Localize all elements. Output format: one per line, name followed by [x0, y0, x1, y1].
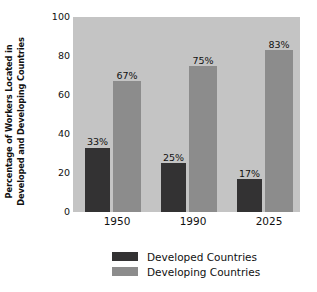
bar-developed-2025	[237, 179, 262, 212]
y-tick-100: 100	[44, 12, 70, 22]
y-axis-ticks: 100 80 60 40 20 0	[40, 0, 70, 292]
bar-developed-1950	[85, 148, 110, 212]
y-axis-title: Percentage of Workers Located in Develop…	[4, 24, 27, 220]
plot-area: 33% 67% 25% 75% 17% 83%	[73, 17, 300, 212]
y-tick-40: 40	[44, 129, 70, 139]
legend-label-developed: Developed Countries	[147, 251, 257, 263]
bar-label-developing-1990: 75%	[179, 55, 227, 66]
x-axis-ticks: 1950 1990 2025	[73, 214, 300, 230]
legend-swatch-developed-icon	[112, 252, 138, 261]
bar-group-1950: 33% 67%	[73, 17, 149, 212]
legend-swatch-developing-icon	[112, 267, 138, 276]
y-tick-80: 80	[44, 51, 70, 61]
legend: Developed Countries Developing Countries	[112, 249, 302, 279]
y-tick-20: 20	[44, 168, 70, 178]
y-tick-0: 0	[44, 207, 70, 217]
bar-label-developing-1950: 67%	[103, 70, 151, 81]
y-tick-60: 60	[44, 90, 70, 100]
bar-developing-1950	[113, 81, 141, 212]
bar-group-1990: 25% 75%	[149, 17, 225, 212]
bar-chart: Percentage of Workers Located in Develop…	[0, 0, 317, 292]
bar-label-developing-2025: 83%	[255, 39, 303, 50]
bar-developed-1990	[161, 163, 186, 212]
legend-label-developing: Developing Countries	[147, 266, 260, 278]
legend-item-developing: Developing Countries	[112, 264, 302, 279]
x-tick-1950: 1950	[79, 214, 155, 228]
x-tick-1990: 1990	[155, 214, 231, 228]
y-axis-title-line-2: Developed and Developing Countries	[15, 24, 27, 220]
y-axis-title-line-1: Percentage of Workers Located in	[4, 24, 16, 220]
bar-developing-2025	[265, 50, 293, 212]
bar-group-2025: 17% 83%	[225, 17, 301, 212]
bar-developing-1990	[189, 66, 217, 212]
legend-item-developed: Developed Countries	[112, 249, 302, 264]
x-tick-2025: 2025	[231, 214, 307, 228]
